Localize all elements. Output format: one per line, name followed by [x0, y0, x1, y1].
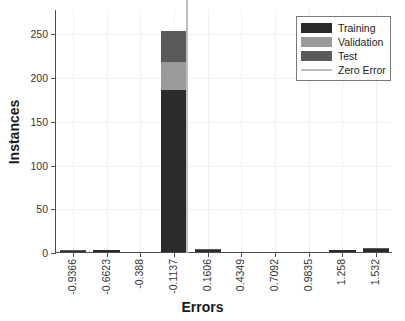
legend-label: Validation — [338, 37, 383, 47]
x-tick-label: -0.388 — [133, 259, 145, 289]
gridline-vertical — [208, 10, 209, 252]
legend-label: Training — [338, 23, 376, 33]
x-tick-mark — [208, 252, 209, 257]
gridline-vertical — [275, 10, 276, 252]
bar-segment-training — [161, 90, 187, 252]
x-tick-label: 0.9835 — [302, 259, 314, 291]
histogram-bar — [161, 31, 187, 252]
x-tick-label: 1.258 — [335, 259, 347, 285]
legend: TrainingValidationTestZero Error — [296, 16, 391, 81]
legend-item[interactable]: Validation — [301, 35, 386, 48]
legend-label: Test — [338, 51, 357, 61]
x-tick-label: 1.532 — [369, 259, 381, 285]
y-tick-label: 100 — [30, 160, 55, 172]
bar-segment-test — [60, 250, 86, 251]
gridline-vertical — [241, 10, 242, 252]
y-tick-label: 50 — [36, 203, 55, 215]
bar-segment-test — [363, 248, 389, 249]
bar-segment-validation — [161, 62, 187, 90]
y-tick-label: 200 — [30, 72, 55, 84]
x-tick-mark — [73, 252, 74, 257]
y-tick-label: 0 — [42, 247, 55, 259]
x-tick-mark — [309, 252, 310, 257]
error-histogram-figure: 050100150200250 -0.9366-0.6623-0.388-0.1… — [0, 0, 405, 321]
x-tick-mark — [376, 252, 377, 257]
x-tick-label: -0.1137 — [167, 259, 179, 294]
y-axis-title: Instances — [6, 100, 22, 165]
x-tick-label: 0.7092 — [268, 259, 280, 291]
x-tick-mark — [174, 252, 175, 257]
bar-segment-test — [195, 249, 221, 250]
x-tick-mark — [107, 252, 108, 257]
legend-item[interactable]: Zero Error — [301, 63, 386, 76]
gridline-vertical — [107, 10, 108, 252]
x-tick-mark — [275, 252, 276, 257]
gridline-vertical — [73, 10, 74, 252]
y-tick-label: 250 — [30, 28, 55, 40]
x-axis-title: Errors — [0, 299, 405, 315]
legend-swatch-icon — [301, 51, 332, 61]
x-tick-label: 0.4349 — [234, 259, 246, 291]
legend-swatch-icon — [301, 37, 332, 47]
x-tick-label: 0.1606 — [201, 259, 213, 291]
x-tick-mark — [241, 252, 242, 257]
legend-line-icon — [301, 65, 332, 75]
x-tick-label: -0.6623 — [100, 259, 112, 295]
y-tick-label: 150 — [30, 116, 55, 128]
x-tick-mark — [342, 252, 343, 257]
zero-error-line — [186, 0, 188, 253]
bar-segment-test — [161, 31, 187, 62]
legend-item[interactable]: Test — [301, 49, 386, 62]
legend-label: Zero Error — [338, 65, 386, 75]
legend-swatch-icon — [301, 23, 332, 33]
x-tick-label: -0.9366 — [66, 259, 78, 295]
legend-item[interactable]: Training — [301, 21, 386, 34]
gridline-vertical — [140, 10, 141, 252]
x-tick-mark — [140, 252, 141, 257]
